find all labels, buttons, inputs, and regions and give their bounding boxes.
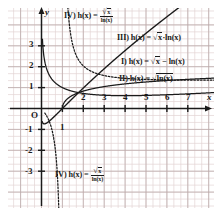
x-tick-7: 7	[186, 92, 191, 102]
x-tick-1: 1	[60, 122, 65, 132]
annotation-III-prefix: III) h(x) =	[117, 33, 153, 42]
radicand: ln(x)	[156, 73, 173, 83]
y-tick-neg1: -1	[25, 124, 33, 134]
x-tick-4: 4	[123, 92, 128, 102]
annotation-III-suffix: ·ln(x)	[162, 33, 181, 42]
annotation-II-prefix: II) h(x) =	[119, 74, 152, 83]
plot-canvas	[0, 0, 222, 216]
annotation-IV-top-prefix: IV) h(x) =	[64, 11, 100, 20]
radicand: x	[98, 167, 102, 174]
annotation-IV-top: IV) h(x) = √xln(x)	[64, 8, 113, 24]
function-graph-figure: y x O 3 2 1 -1 -2 -3 1 2 3 4 5 6 7 IV) h…	[0, 0, 222, 216]
y-tick-neg3: -3	[25, 166, 33, 176]
annotation-I: I) h(x) = √x − ln(x)	[121, 56, 185, 66]
radicand: x	[155, 56, 160, 66]
x-tick-5: 5	[144, 92, 149, 102]
annotation-I-suffix: − ln(x)	[160, 57, 184, 66]
y-tick-2: 2	[29, 60, 34, 70]
x-tick-3: 3	[102, 92, 107, 102]
annotation-IV-bottom-fraction: √xln(x)	[91, 167, 105, 183]
x-tick-6: 6	[165, 92, 170, 102]
annotation-IV-bottom: IV) h(x) = √xln(x)	[55, 167, 104, 183]
y-tick-1: 1	[29, 81, 34, 91]
x-axis-label: x	[207, 92, 212, 102]
origin-label: O	[31, 110, 38, 120]
x-tick-2: 2	[81, 92, 86, 102]
annotation-IV-top-fraction: √xln(x)	[100, 8, 114, 24]
denominator: ln(x)	[91, 176, 105, 182]
annotation-III: III) h(x) = √x·ln(x)	[117, 32, 181, 42]
radicand: x	[107, 8, 111, 15]
y-tick-3: 3	[29, 39, 34, 49]
radicand: x	[157, 32, 162, 42]
y-axis-label: y	[45, 7, 49, 17]
annotation-I-prefix: I) h(x) =	[121, 57, 151, 66]
annotation-IV-bottom-prefix: IV) h(x) =	[55, 170, 91, 179]
y-tick-neg2: -2	[25, 145, 33, 155]
annotation-II: II) h(x) = √ln(x)	[119, 73, 173, 83]
denominator: ln(x)	[100, 17, 114, 23]
